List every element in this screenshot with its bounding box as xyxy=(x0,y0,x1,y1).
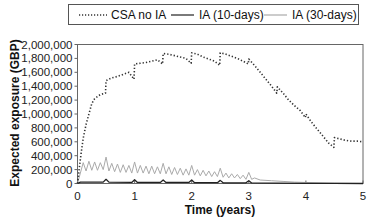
y-tick-label: 1,400,000 xyxy=(21,80,72,92)
y-axis: 0200,000400,000600,000800,0001,000,0001,… xyxy=(21,39,77,190)
legend: CSA no IA IA (10-days) IA (30-days) xyxy=(69,5,359,25)
x-tick-label: 2 xyxy=(188,190,194,202)
x-tick-label: 4 xyxy=(303,190,310,202)
y-tick-label: 600,000 xyxy=(31,136,73,148)
y-axis-title: Expected exposure (GBP) xyxy=(8,39,22,186)
x-tick-label: 3 xyxy=(246,190,252,202)
plot-area xyxy=(78,45,364,184)
y-tick-label: 0 xyxy=(66,178,72,190)
legend-label-csa-no-ia: CSA no IA xyxy=(111,8,166,22)
exposure-chart: CSA no IA IA (10-days) IA (30-days) 0200… xyxy=(0,0,372,223)
x-axis-title: Time (years) xyxy=(185,203,255,217)
y-tick-label: 1,200,000 xyxy=(21,94,72,106)
x-tick-label: 0 xyxy=(74,190,80,202)
y-tick-label: 2,000,000 xyxy=(21,39,72,51)
y-tick-label: 1,000,000 xyxy=(21,108,72,120)
y-tick-label: 400,000 xyxy=(31,150,73,162)
x-tick-label: 1 xyxy=(131,190,137,202)
legend-label-ia-30-days: IA (30-days) xyxy=(292,8,357,22)
y-tick-label: 800,000 xyxy=(31,122,73,134)
y-tick-label: 200,000 xyxy=(31,164,73,176)
legend-label-ia-10-days: IA (10-days) xyxy=(199,8,264,22)
y-tick-label: 1,800,000 xyxy=(21,52,72,64)
y-tick-label: 1,600,000 xyxy=(21,66,72,78)
x-tick-label: 5 xyxy=(360,190,366,202)
